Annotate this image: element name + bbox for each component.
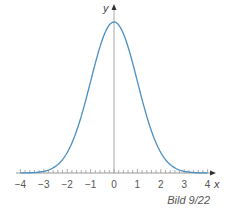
y-axis-label: y — [102, 2, 110, 14]
x-tick-label: 4 — [205, 179, 211, 190]
x-tick-label: −1 — [85, 179, 97, 190]
y-axis-arrow-icon — [112, 4, 117, 10]
x-tick-label: −3 — [38, 179, 50, 190]
x-tick-label: 0 — [111, 179, 117, 190]
axes: x y — [16, 2, 220, 190]
x-tick-label: −4 — [15, 179, 27, 190]
chart: x y −4−3−2−101234 — [0, 0, 228, 219]
x-axis-arrow-icon — [210, 171, 216, 176]
x-tick-label: 3 — [181, 179, 187, 190]
x-tick-label: 1 — [135, 179, 141, 190]
x-tick-label: −2 — [61, 179, 73, 190]
x-tick-labels: −4−3−2−101234 — [15, 179, 211, 190]
x-axis-label: x — [213, 178, 220, 190]
figure-caption: Bild 9/22 — [167, 194, 210, 206]
x-tick-label: 2 — [158, 179, 164, 190]
